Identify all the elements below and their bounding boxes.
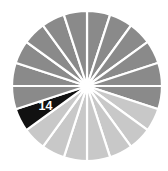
pie-slice-label-14: 14 xyxy=(39,99,53,113)
pie-chart-svg: 14 xyxy=(0,0,168,171)
pie-slices-group xyxy=(12,11,162,161)
pie-chart-container: 14 xyxy=(0,0,168,171)
pie-labels-group: 14 xyxy=(39,99,53,113)
